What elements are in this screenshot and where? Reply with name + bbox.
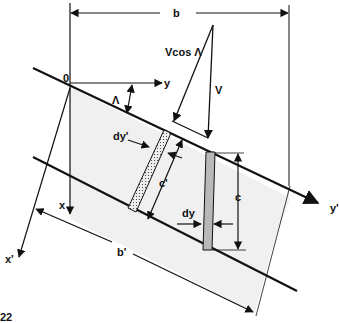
y-axis-label: y [164,77,171,89]
sweep-angle-label: Λ [112,94,120,106]
normal-velocity-label: Vcos Λ [165,46,202,58]
velocity-vector [208,25,213,138]
y-prime-axis-label: y' [330,202,339,214]
origin-label: 0 [63,72,69,84]
velocity-label: V [215,84,223,96]
normal-velocity-vector [174,25,213,121]
x-prime-axis-label: x' [5,253,14,265]
swept-wing-diagram: b y 0 Λ x x' b' y' V Vcos Λ dy' c' dy c [0,0,339,323]
page-number: 22 [0,311,12,323]
normal-strip-label: dy' [113,130,129,142]
x-axis-label: x [59,199,66,211]
strip-width-label: dy [182,207,196,219]
span-label: b [173,7,180,19]
chord-label: c [235,191,241,203]
sweep-angle-arrow [127,85,132,113]
swept-span-label: b' [117,246,127,258]
normal-chord-label: c' [159,177,168,189]
